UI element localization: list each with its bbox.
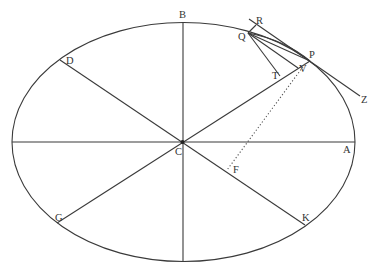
ellipse-diagram: B D R Q P T V Z A C F G K	[0, 0, 377, 268]
label-c: C	[175, 146, 182, 157]
label-q: Q	[238, 31, 246, 42]
label-z: Z	[361, 94, 367, 105]
label-r: R	[256, 15, 263, 26]
segment-qr-line	[248, 25, 256, 33]
label-g: G	[55, 212, 63, 223]
label-b: B	[179, 9, 186, 20]
label-v: V	[299, 63, 307, 74]
label-p: P	[309, 49, 315, 60]
label-k: K	[302, 212, 310, 223]
dotted-pf-line	[227, 64, 305, 170]
label-t: T	[272, 70, 279, 81]
center-point	[181, 140, 185, 144]
segment-qv-line	[248, 33, 298, 68]
label-f: F	[233, 164, 239, 175]
chord-qp-line	[248, 33, 310, 61]
label-a: A	[343, 144, 351, 155]
label-d: D	[66, 55, 74, 66]
